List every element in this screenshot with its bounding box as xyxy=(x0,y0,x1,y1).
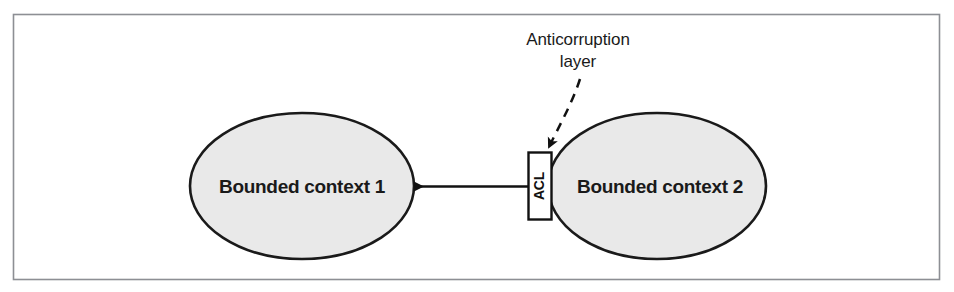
figure-container: ACL Anticorruption layer Bounded context… xyxy=(0,0,954,292)
callout-label-line-1: Anticorruption xyxy=(526,30,630,49)
bounded-context-2-label: Bounded context 2 xyxy=(577,176,743,197)
acl-box-label: ACL xyxy=(531,171,547,200)
figure-frame xyxy=(14,15,940,280)
diagram-canvas: ACL Anticorruption layer Bounded context… xyxy=(0,0,954,292)
bounded-context-1-label: Bounded context 1 xyxy=(219,176,386,197)
callout-label-line-2: layer xyxy=(560,52,597,71)
